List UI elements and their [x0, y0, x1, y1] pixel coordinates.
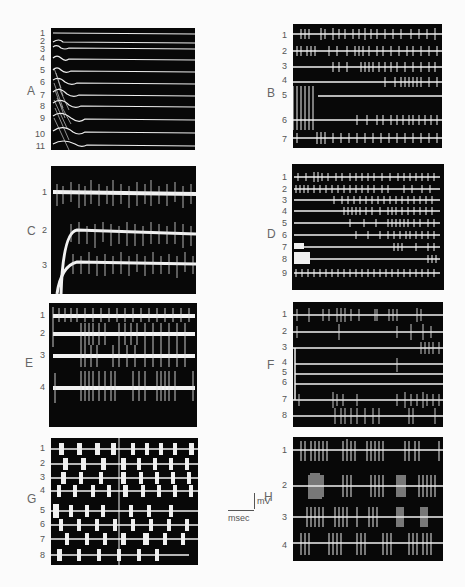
- panel-b-trace-label: 7: [275, 135, 287, 144]
- panel-d-trace-label: 1: [275, 173, 287, 182]
- panel-e-trace-label: 4: [33, 383, 45, 392]
- panel-d-trace-label: 6: [275, 231, 287, 240]
- panel-c-traces: [51, 166, 196, 294]
- panel-c-trace-label: 2: [35, 226, 47, 235]
- panel-g-trace-label: 1: [33, 444, 45, 453]
- panel-g-trace-label: 2: [33, 459, 45, 468]
- panel-b-trace-label: 1: [275, 31, 287, 40]
- panel-e-trace-label: 1: [33, 311, 45, 320]
- panel-a-trace-label: 8: [33, 102, 45, 111]
- scale-bar-msec-label: msec: [228, 513, 250, 523]
- panel-d-trace-label: 2: [275, 185, 287, 194]
- panel-h-trace-label: 4: [275, 541, 287, 550]
- panel-b-trace-label: 3: [275, 62, 287, 71]
- panel-a-traces: [51, 28, 195, 150]
- panel-a-trace-label: 6: [33, 78, 45, 87]
- panel-g-trace-label: 8: [33, 551, 45, 560]
- panel-g-trace-label: 7: [33, 535, 45, 544]
- panel-a-trace-label: 4: [33, 54, 45, 63]
- panel-g-traces: [51, 438, 198, 565]
- panel-h: [293, 437, 443, 561]
- panel-d-trace-label: 9: [275, 269, 287, 278]
- panel-e: [49, 303, 197, 427]
- panel-e-trace-label: 3: [33, 351, 45, 360]
- panel-c: [51, 166, 196, 294]
- panel-b: [293, 24, 442, 148]
- panel-a-trace-label: 11: [33, 142, 45, 151]
- panel-d-trace-label: 8: [275, 255, 287, 264]
- panel-d-trace-label: 7: [275, 243, 287, 252]
- scale-bar-vertical: [254, 493, 255, 509]
- panel-c-trace-label: 1: [35, 188, 47, 197]
- panel-h-traces: [293, 437, 443, 561]
- panel-g-trace-label: 4: [33, 486, 45, 495]
- panel-e-trace-label: 2: [33, 329, 45, 338]
- panel-c-trace-label: 3: [35, 261, 47, 270]
- panel-a-trace-label: 10: [33, 130, 45, 139]
- panel-label-h: H: [264, 490, 273, 504]
- panel-a: [51, 28, 195, 150]
- panel-f-trace-label: 5: [275, 368, 287, 377]
- panel-label-f: F: [267, 358, 274, 372]
- panel-g-trace-label: 6: [33, 520, 45, 529]
- panel-b-traces: [293, 24, 442, 148]
- panel-b-trace-label: 2: [275, 47, 287, 56]
- panel-g-trace-label: 3: [33, 473, 45, 482]
- panel-d-trace-label: 4: [275, 207, 287, 216]
- scale-bar-horizontal: [228, 510, 254, 511]
- panel-f-trace-label: 1: [275, 310, 287, 319]
- panel-a-trace-label: 9: [33, 114, 45, 123]
- panel-e-traces: [49, 303, 197, 427]
- panel-a-trace-label: 5: [33, 66, 45, 75]
- panel-f-traces: [293, 302, 443, 427]
- panel-f-trace-label: 4: [275, 358, 287, 367]
- panel-b-trace-label: 4: [275, 76, 287, 85]
- panel-d: [292, 164, 444, 290]
- panel-h-trace-label: 1: [275, 446, 287, 455]
- panel-g-trace-label: 5: [33, 506, 45, 515]
- panel-f-trace-label: 6: [275, 378, 287, 387]
- panel-f-trace-label: 7: [275, 395, 287, 404]
- panel-label-b: B: [267, 86, 275, 100]
- panel-a-trace-label: 7: [33, 91, 45, 100]
- panel-d-trace-label: 5: [275, 219, 287, 228]
- panel-label-e: E: [25, 356, 33, 370]
- panel-f: [293, 302, 443, 427]
- panel-g: [51, 438, 198, 565]
- panel-f-trace-label: 3: [275, 343, 287, 352]
- panel-d-trace-label: 3: [275, 196, 287, 205]
- panel-h-trace-label: 3: [275, 513, 287, 522]
- panel-b-trace-label: 5: [275, 91, 287, 100]
- panel-f-trace-label: 2: [275, 327, 287, 336]
- panel-b-trace-label: 6: [275, 116, 287, 125]
- panel-h-trace-label: 2: [275, 481, 287, 490]
- panel-d-traces: [292, 164, 444, 290]
- panel-f-trace-label: 8: [275, 411, 287, 420]
